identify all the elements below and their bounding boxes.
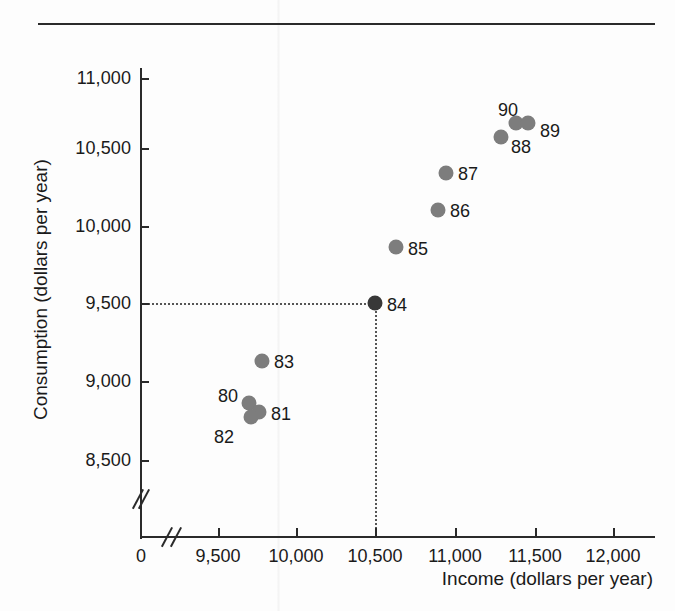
x-tick-9500 bbox=[218, 528, 220, 537]
guide-line-horizontal bbox=[141, 303, 373, 305]
x-axis-title: Income (dollars per year) bbox=[442, 568, 653, 590]
y-tick-label: 8,500 bbox=[85, 450, 131, 471]
origin-label: 0 bbox=[136, 546, 146, 567]
data-point-label-85: 85 bbox=[408, 239, 428, 260]
x-tick-10000 bbox=[296, 528, 298, 537]
y-tick-label: 9,500 bbox=[85, 293, 131, 314]
x-tick-11500 bbox=[535, 528, 537, 537]
data-point-88[interactable] bbox=[494, 130, 509, 145]
data-point-label-90: 90 bbox=[498, 100, 518, 121]
data-point-label-82: 82 bbox=[214, 427, 234, 448]
data-point-82[interactable] bbox=[244, 410, 259, 425]
y-tick-10000 bbox=[140, 226, 149, 228]
x-tick-label: 10,500 bbox=[347, 546, 402, 567]
y-axis-title: Consumption (dollars per year) bbox=[30, 159, 52, 420]
data-point-label-88: 88 bbox=[511, 137, 531, 158]
data-point-label-89: 89 bbox=[540, 121, 560, 142]
y-tick-11000 bbox=[140, 78, 149, 80]
data-point-label-86: 86 bbox=[450, 201, 470, 222]
data-point-85[interactable] bbox=[389, 240, 404, 255]
y-axis-break-icon bbox=[133, 487, 149, 513]
scatter-plot-figure: 11,000 10,500 10,000 9,500 9,000 8,500 bbox=[0, 0, 675, 611]
data-point-label-83: 83 bbox=[274, 352, 294, 373]
y-tick-label: 9,000 bbox=[85, 371, 131, 392]
data-point-87[interactable] bbox=[439, 166, 454, 181]
x-tick-label: 10,000 bbox=[268, 546, 323, 567]
x-tick-11000 bbox=[455, 528, 457, 537]
x-tick-label: 11,000 bbox=[428, 546, 482, 567]
data-point-label-80: 80 bbox=[218, 386, 238, 407]
x-tick-label: 11,500 bbox=[508, 546, 562, 567]
data-point-86[interactable] bbox=[431, 203, 446, 218]
y-tick-label: 10,500 bbox=[75, 138, 131, 159]
x-axis-break-icon bbox=[160, 524, 188, 550]
guide-line-vertical bbox=[375, 304, 377, 536]
data-point-84[interactable] bbox=[368, 296, 383, 311]
x-tick-12000 bbox=[613, 528, 615, 537]
y-tick-9500 bbox=[140, 303, 149, 305]
x-tick-label: 9,500 bbox=[195, 546, 240, 567]
data-point-label-87: 87 bbox=[458, 164, 478, 185]
y-tick-9000 bbox=[140, 381, 149, 383]
x-tick-10500 bbox=[375, 528, 377, 537]
y-tick-label: 11,000 bbox=[77, 68, 131, 89]
data-point-label-84: 84 bbox=[387, 295, 407, 316]
data-point-89[interactable] bbox=[521, 116, 536, 131]
y-tick-10500 bbox=[140, 148, 149, 150]
y-tick-8500 bbox=[140, 460, 149, 462]
data-point-label-81: 81 bbox=[271, 404, 291, 425]
data-point-83[interactable] bbox=[255, 354, 270, 369]
plot-area: 11,000 10,500 10,000 9,500 9,000 8,500 bbox=[0, 0, 675, 611]
x-tick-label: 12,000 bbox=[585, 546, 640, 567]
y-tick-label: 10,000 bbox=[75, 216, 131, 237]
